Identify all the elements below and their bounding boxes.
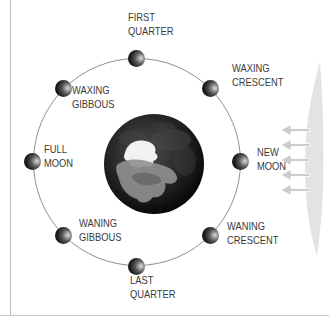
label-last-quarter: LAST QUARTER: [130, 273, 176, 301]
label-line: WAXING: [232, 61, 283, 75]
label-line: QUARTER: [128, 24, 174, 38]
moon-waxing-gibbous: [55, 80, 72, 97]
label-line: GIBBOUS: [72, 97, 115, 111]
label-line: CRESCENT: [232, 75, 283, 89]
page-rule-left: [10, 0, 11, 315]
moon-new-moon: [232, 153, 249, 170]
moon-waxing-crescent: [202, 80, 219, 97]
label-first-quarter: FIRST QUARTER: [128, 10, 174, 38]
label-line: NEW: [257, 145, 286, 159]
label-waxing-gibbous: WAXING GIBBOUS: [72, 83, 115, 111]
label-line: FULL: [44, 142, 73, 156]
label-full-moon: FULL MOON: [44, 142, 73, 170]
earth-globe: [103, 113, 205, 215]
moon-waning-gibbous: [55, 227, 72, 244]
label-waning-gibbous: WANING GIBBOUS: [79, 216, 122, 244]
label-line: CRESCENT: [227, 233, 278, 247]
label-waning-crescent: WANING CRESCENT: [227, 219, 278, 247]
moon-full-moon: [24, 153, 41, 170]
label-line: FIRST: [128, 10, 174, 24]
label-new-moon: NEW MOON: [257, 145, 286, 173]
moon-waning-crescent: [202, 227, 219, 244]
label-line: QUARTER: [130, 287, 176, 301]
moon-phases-diagram: FIRST QUARTER WAXING CRESCENT NEW MOON W…: [0, 0, 329, 324]
label-line: WAXING: [72, 83, 115, 97]
label-line: LAST: [130, 273, 176, 287]
label-waxing-crescent: WAXING CRESCENT: [232, 61, 283, 89]
label-line: WANING: [227, 219, 278, 233]
label-line: MOON: [44, 156, 73, 170]
label-line: MOON: [257, 159, 286, 173]
label-line: WANING: [79, 216, 122, 230]
moon-first-quarter: [128, 50, 145, 67]
label-line: GIBBOUS: [79, 230, 122, 244]
